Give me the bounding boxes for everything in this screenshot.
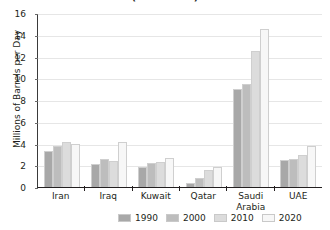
y-tick-label: 2 <box>0 161 26 171</box>
bar-group <box>38 14 85 187</box>
bar[interactable] <box>213 167 222 187</box>
legend-label: 1990 <box>135 213 158 223</box>
legend-item[interactable]: 1990 <box>118 213 158 223</box>
legend-swatch-icon <box>166 214 179 222</box>
bar-group <box>133 14 180 187</box>
bar[interactable] <box>165 158 174 187</box>
bar[interactable] <box>289 159 298 187</box>
bar-groups <box>38 14 322 187</box>
chart-legend: 1990200020102020 <box>118 213 326 223</box>
x-tick-label: UAE <box>275 191 323 212</box>
bar[interactable] <box>280 160 289 187</box>
bar[interactable] <box>53 146 62 187</box>
y-tick-label: 0 <box>0 183 26 193</box>
bar[interactable] <box>156 162 165 187</box>
x-tick-label: Qatar <box>180 191 228 212</box>
y-tick-label: 6 <box>0 118 26 128</box>
legend-label: 2020 <box>279 213 302 223</box>
bar[interactable] <box>204 170 213 187</box>
x-tick-label: Kuwait <box>132 191 180 212</box>
legend-swatch-icon <box>118 214 131 222</box>
chart-title: (estimated) <box>0 0 330 2</box>
bar[interactable] <box>195 178 204 187</box>
bar-group <box>275 14 322 187</box>
bar[interactable] <box>298 155 307 187</box>
legend-swatch-icon <box>214 214 227 222</box>
y-tick-label: 16 <box>0 9 26 19</box>
y-tick-label: 12 <box>0 53 26 63</box>
bar[interactable] <box>71 144 80 188</box>
plot-area: 0246810121416 <box>37 14 322 188</box>
bar-group <box>227 14 274 187</box>
y-tick-label: 8 <box>0 96 26 106</box>
bar[interactable] <box>186 183 195 187</box>
bar[interactable] <box>62 142 71 187</box>
y-tick-label: 10 <box>0 74 26 84</box>
bar[interactable] <box>138 167 147 187</box>
bar-chart: (estimated) Millions of Barrels per Day … <box>0 0 330 230</box>
legend-item[interactable]: 2020 <box>262 213 302 223</box>
bar[interactable] <box>118 142 127 187</box>
bar[interactable] <box>233 89 242 187</box>
y-tick-mark <box>35 188 38 189</box>
x-tick-label: Iran <box>37 191 85 212</box>
legend-swatch-icon <box>262 214 275 222</box>
bar[interactable] <box>147 163 156 187</box>
y-tick-label: 4 <box>0 140 26 150</box>
bar[interactable] <box>242 84 251 187</box>
y-tick-label: 14 <box>0 31 26 41</box>
bar[interactable] <box>91 164 100 187</box>
legend-label: 2010 <box>231 213 254 223</box>
x-tick-label: Iraq <box>85 191 133 212</box>
x-tick-label: Saudi Arabia <box>227 191 275 212</box>
bar[interactable] <box>251 51 260 187</box>
legend-item[interactable]: 2010 <box>214 213 254 223</box>
bar-group <box>180 14 227 187</box>
bar[interactable] <box>260 29 269 187</box>
bar[interactable] <box>109 161 118 187</box>
bar[interactable] <box>44 151 53 187</box>
legend-item[interactable]: 2000 <box>166 213 206 223</box>
bar-group <box>85 14 132 187</box>
bar[interactable] <box>307 146 316 187</box>
x-axis-labels: IranIraqKuwaitQatarSaudi ArabiaUAE <box>37 191 322 212</box>
legend-label: 2000 <box>183 213 206 223</box>
bar[interactable] <box>100 159 109 187</box>
